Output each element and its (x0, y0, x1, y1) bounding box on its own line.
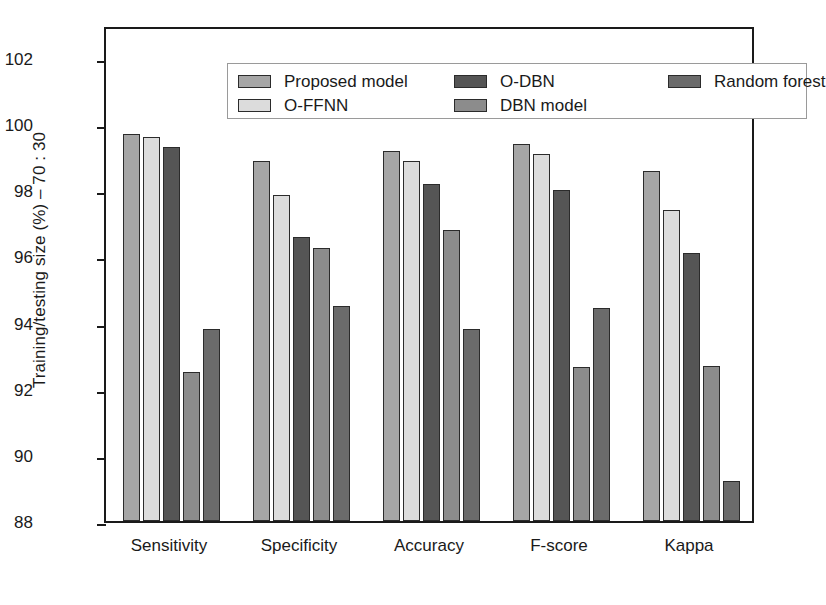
plot-area: Proposed modelO-FFNNO-DBNDBN modelRandom… (104, 27, 754, 523)
legend-swatch-icon (668, 75, 701, 88)
bar (663, 210, 680, 521)
legend-item-random-forest[interactable]: Random forest (668, 70, 826, 92)
bar (293, 237, 310, 521)
y-axis-title: Training/testing size (%) – 70 : 30 (30, 50, 50, 470)
y-axis-tick (97, 127, 106, 129)
bar (513, 144, 530, 521)
y-axis-tick-label: 96 (0, 249, 33, 266)
y-axis-tick (97, 61, 106, 63)
legend-label: DBN model (500, 97, 587, 114)
bar (313, 248, 330, 521)
y-axis-tick (97, 193, 106, 195)
y-axis-tick (97, 458, 106, 460)
bar (723, 481, 740, 521)
y-axis-tick (97, 326, 106, 328)
legend-item-o-dbn[interactable]: O-DBN (454, 70, 587, 92)
y-axis-tick-label: 92 (0, 382, 33, 399)
legend-swatch-icon (238, 99, 271, 112)
bar (203, 329, 220, 521)
y-axis-tick-label: 88 (0, 514, 33, 531)
bar (553, 190, 570, 521)
bar (593, 308, 610, 521)
y-axis-tick-label: 98 (0, 183, 33, 200)
x-axis-label-specificity: Specificity (234, 536, 364, 556)
legend-label: O-DBN (500, 73, 555, 90)
legend-item-proposed-model[interactable]: Proposed model (238, 70, 408, 92)
bar (573, 367, 590, 521)
y-axis-tick (97, 392, 106, 394)
y-axis-tick-label: 100 (0, 117, 33, 134)
x-axis-label-accuracy: Accuracy (364, 536, 494, 556)
legend-column: Random forest (668, 70, 826, 94)
bar (463, 329, 480, 521)
bar (143, 137, 160, 521)
legend-item-dbn-model[interactable]: DBN model (454, 94, 587, 116)
legend-column: Proposed modelO-FFNN (238, 70, 408, 118)
bar (703, 366, 720, 521)
legend-label: O-FFNN (284, 97, 348, 114)
bar (403, 161, 420, 521)
bar (163, 147, 180, 521)
y-axis-tick (97, 524, 106, 526)
legend-item-o-ffnn[interactable]: O-FFNN (238, 94, 408, 116)
legend-swatch-icon (238, 75, 271, 88)
bar (383, 151, 400, 521)
bar (423, 184, 440, 521)
bar (533, 154, 550, 521)
bar (683, 253, 700, 521)
bar (273, 195, 290, 521)
bar (333, 306, 350, 521)
bar (253, 161, 270, 521)
legend-column: O-DBNDBN model (454, 70, 587, 118)
y-axis-tick-label: 90 (0, 448, 33, 465)
bar (183, 372, 200, 521)
chart-legend: Proposed modelO-FFNNO-DBNDBN modelRandom… (227, 63, 807, 119)
y-axis-tick (97, 259, 106, 261)
bar (443, 230, 460, 521)
x-axis-label-kappa: Kappa (624, 536, 754, 556)
legend-swatch-icon (454, 99, 487, 112)
bar (123, 134, 140, 521)
y-axis-tick-label: 102 (0, 51, 33, 68)
y-axis-tick-label: 94 (0, 316, 33, 333)
legend-swatch-icon (454, 75, 487, 88)
x-axis-label-f-score: F-score (494, 536, 624, 556)
legend-label: Proposed model (284, 73, 408, 90)
bar (643, 171, 660, 522)
legend-label: Random forest (714, 73, 826, 90)
bar-group-sensitivity (123, 29, 220, 521)
x-axis-label-sensitivity: Sensitivity (104, 536, 234, 556)
